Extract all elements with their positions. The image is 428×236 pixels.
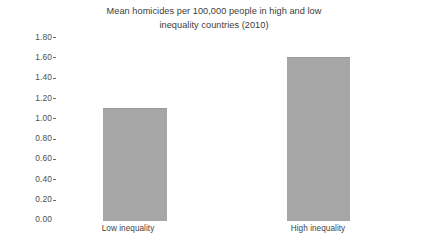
- y-tick-label-1.40: 1.40: [4, 73, 52, 82]
- y-tick-label-1.60: 1.60: [4, 53, 52, 62]
- y-tick-mark-0.20: [53, 200, 56, 201]
- y-axis-labels: 1.80 1.60 1.40 1.20 1.00 0.80 0.60 0.40 …: [0, 0, 52, 236]
- y-tick-mark-1.60: [53, 57, 56, 58]
- bar-chart-figure: Mean homicides per 100,000 people in hig…: [0, 0, 428, 236]
- x-axis-label-low-inequality: Low inequality: [73, 224, 183, 234]
- y-tick-mark-1.00: [53, 118, 56, 119]
- y-tick-label-1.00: 1.00: [4, 114, 52, 123]
- y-tick-label-0.00: 0.00: [4, 215, 52, 224]
- y-tick-mark-0.80: [53, 139, 56, 140]
- y-tick-label-0.40: 0.40: [4, 175, 52, 184]
- y-tick-mark-0.40: [53, 179, 56, 180]
- y-tick-mark-1.80: [53, 37, 56, 38]
- bar-low-inequality[interactable]: [103, 108, 167, 221]
- y-tick-label-0.60: 0.60: [4, 154, 52, 163]
- y-tick-mark-0.60: [53, 159, 56, 160]
- x-axis-label-high-inequality: High inequality: [263, 224, 373, 234]
- bar-high-inequality[interactable]: [287, 57, 350, 221]
- y-tick-label-1.20: 1.20: [4, 94, 52, 103]
- chart-title-line-1: Mean homicides per 100,000 people in hig…: [0, 4, 428, 18]
- chart-title-line-2: inequality countries (2010): [0, 18, 428, 32]
- plot-area: [57, 37, 412, 220]
- y-tick-mark-1.40: [53, 78, 56, 79]
- y-tick-label-0.20: 0.20: [4, 195, 52, 204]
- y-tick-mark-1.20: [53, 98, 56, 99]
- chart-title: Mean homicides per 100,000 people in hig…: [0, 4, 428, 32]
- y-tick-label-0.80: 0.80: [4, 134, 52, 143]
- y-tick-label-1.80: 1.80: [4, 33, 52, 42]
